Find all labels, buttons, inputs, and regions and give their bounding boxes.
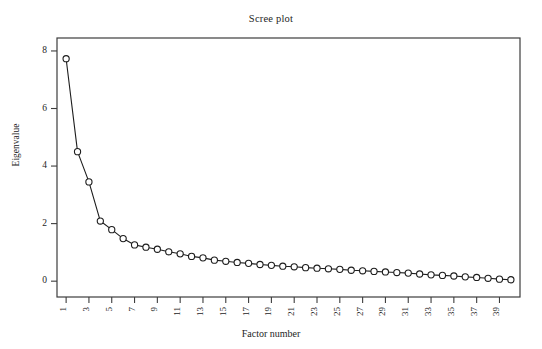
data-point-marker [234,259,240,265]
x-tick-label: 23 [309,307,319,317]
y-axis: 02468 [42,45,57,285]
x-tick-label: 37 [469,307,479,317]
data-point-marker [428,272,434,278]
scree-plot-figure: Scree plot Eigenvalue 02468 135791113151… [0,0,542,349]
data-point-marker [245,260,251,266]
x-tick-label: 21 [286,307,296,316]
data-point-marker [188,253,194,259]
data-point-marker [348,267,354,273]
eigenvalue-series-markers [63,56,514,283]
x-tick-label: 31 [400,307,410,316]
x-tick-label: 1 [58,307,68,312]
data-point-marker [303,265,309,271]
x-tick-label: 19 [263,307,273,317]
data-point-marker [120,235,126,241]
x-tick-label: 7 [127,307,137,312]
data-point-marker [143,244,149,250]
data-point-marker [211,257,217,263]
data-point-marker [508,277,514,283]
data-point-marker [200,255,206,261]
x-axis-label: Factor number [0,328,542,339]
data-point-marker [154,246,160,252]
x-tick-label: 39 [491,307,501,317]
data-point-marker [257,261,263,267]
data-point-marker [314,265,320,271]
x-tick-label: 3 [81,307,91,312]
y-tick-label: 0 [42,275,47,285]
data-point-marker [417,271,423,277]
chart-svg: 02468 1357911131517192123252729313335373… [0,0,542,349]
y-tick-label: 2 [42,218,47,228]
x-tick-label: 27 [355,307,365,317]
data-point-marker [223,258,229,264]
data-point-marker [291,264,297,270]
x-tick-label: 15 [218,307,228,317]
data-point-marker [97,218,103,224]
data-point-marker [86,179,92,185]
data-point-marker [394,269,400,275]
data-point-marker [177,251,183,257]
x-tick-label: 25 [332,307,342,317]
data-point-marker [325,266,331,272]
data-point-marker [63,56,69,62]
x-tick-label: 11 [172,307,182,316]
data-point-marker [360,268,366,274]
data-point-marker [382,269,388,275]
y-tick-label: 8 [42,45,47,55]
x-tick-label: 17 [241,307,251,317]
x-tick-label: 33 [423,307,433,317]
x-tick-label: 35 [446,307,456,317]
x-tick-label: 5 [104,307,114,312]
data-point-marker [166,249,172,255]
x-tick-label: 29 [377,307,387,317]
data-point-marker [268,262,274,268]
data-point-marker [496,276,502,282]
x-axis: 13579111315171921232527293133353739 [58,297,501,316]
data-point-marker [109,227,115,233]
data-point-marker [371,268,377,274]
x-tick-label: 9 [149,307,159,312]
data-point-marker [474,274,480,280]
data-point-marker [439,272,445,278]
data-point-marker [280,263,286,269]
y-tick-label: 4 [42,160,47,170]
data-point-marker [451,273,457,279]
plot-frame [57,38,520,297]
x-tick-label: 13 [195,307,205,317]
data-point-marker [74,149,80,155]
data-point-marker [131,242,137,248]
data-point-marker [337,266,343,272]
y-tick-label: 6 [42,103,47,113]
data-point-marker [405,270,411,276]
data-point-marker [485,275,491,281]
data-point-marker [462,274,468,280]
plot-canvas: 02468 1357911131517192123252729313335373… [0,0,542,349]
